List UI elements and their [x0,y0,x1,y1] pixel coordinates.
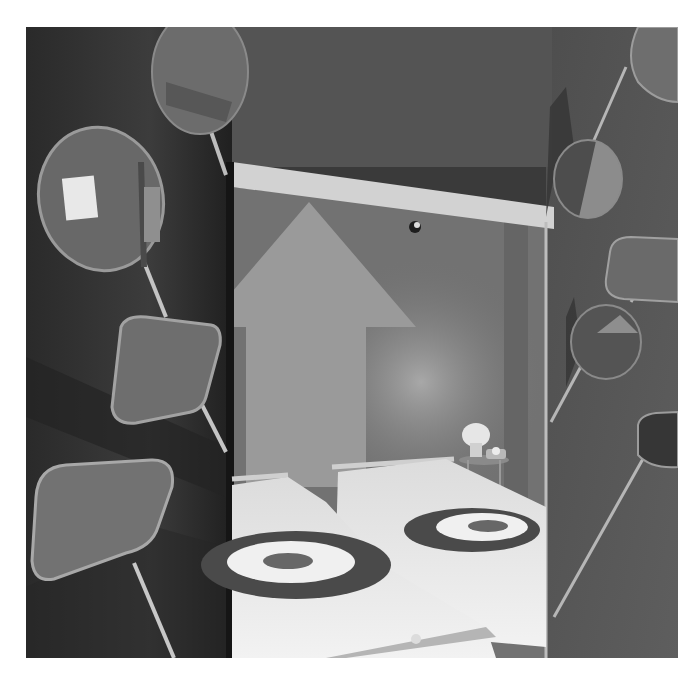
beds [201,459,546,658]
mirror-rounded-rect-right [606,237,678,302]
mirror-pie-slice-disc [571,305,641,379]
hotel-room-photograph [26,27,678,658]
mirror-dark-rounded-rect [638,412,678,467]
